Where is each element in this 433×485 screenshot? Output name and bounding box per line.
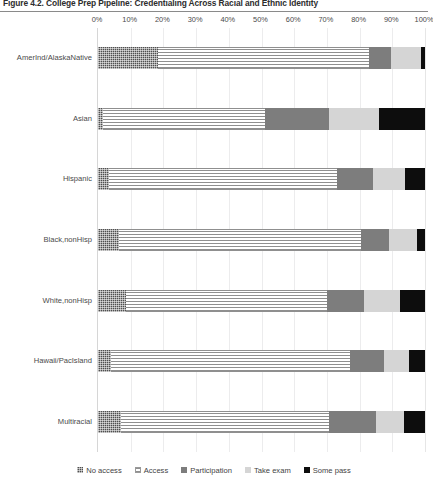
legend-label: Some pass: [313, 466, 351, 475]
bar-segment-some-pass: [404, 411, 425, 433]
bar-segment-some-pass: [409, 350, 425, 372]
bar-segment-participation: [337, 168, 373, 190]
x-axis-tick-labels: 0%10%20%30%40%50%60%70%80%90%100%: [0, 14, 428, 26]
bar-segment-access: [109, 168, 336, 190]
bar-segment-take-exam: [364, 290, 400, 312]
category-label: White,nonHisp: [43, 296, 92, 306]
legend-label: Access: [144, 466, 168, 475]
title-divider: [0, 11, 428, 12]
legend-swatch-icon: [304, 467, 310, 473]
stacked-bar: [98, 168, 425, 190]
legend-label: No access: [86, 466, 121, 475]
bar-row: Asian: [98, 108, 425, 130]
x-axis-tick-100: 100%: [415, 14, 433, 26]
legend-item-participation[interactable]: Participation: [181, 466, 232, 475]
category-label: Asian: [73, 114, 92, 124]
bar-row: Hispanic: [98, 168, 425, 190]
bar-segment-access: [126, 290, 327, 312]
x-axis-tick-50: 50%: [253, 14, 268, 26]
bar-segment-no-access: [98, 47, 158, 69]
bar-segment-some-pass: [421, 47, 425, 69]
bar-row: Black,nonHisp: [98, 229, 425, 251]
x-axis-tick-0: 0%: [92, 14, 103, 26]
bar-row: White,nonHisp: [98, 290, 425, 312]
bar-segment-participation: [327, 290, 365, 312]
legend-label: Take exam: [254, 466, 291, 475]
bar-row: AmerInd/AlaskaNative: [98, 47, 425, 69]
bar-segment-access: [121, 411, 329, 433]
stacked-bar: [98, 47, 425, 69]
bar-segment-access: [119, 229, 361, 251]
x-axis-tick-90: 90%: [384, 14, 399, 26]
bar-segment-some-pass: [405, 168, 425, 190]
x-axis-tick-10: 10%: [122, 14, 137, 26]
x-axis-tick-20: 20%: [155, 14, 170, 26]
bar-segment-participation: [350, 350, 384, 372]
bar-segment-no-access: [98, 411, 121, 433]
bar-segment-participation: [265, 108, 329, 130]
category-label: Multiracial: [58, 417, 92, 427]
legend-swatch-icon: [245, 467, 251, 473]
bar-segment-participation: [369, 47, 391, 69]
stacked-bar: [98, 290, 425, 312]
legend-swatch-icon: [181, 467, 187, 473]
bar-segment-take-exam: [373, 168, 406, 190]
bar-segment-take-exam: [376, 411, 404, 433]
bar-segment-access: [103, 108, 265, 130]
x-axis-tick-80: 80%: [351, 14, 366, 26]
bar-segment-some-pass: [400, 290, 425, 312]
stacked-bar: [98, 411, 425, 433]
bar-segment-access: [158, 47, 369, 69]
bar-segment-some-pass: [379, 108, 425, 130]
stacked-bar: [98, 108, 425, 130]
bar-row: Multiracial: [98, 411, 425, 433]
stacked-bar: [98, 229, 425, 251]
legend-item-some-pass[interactable]: Some pass: [304, 466, 351, 475]
plot-area: AmerInd/AlaskaNativeAsianHispanicBlack,n…: [97, 28, 426, 452]
bar-segment-participation: [329, 411, 376, 433]
bar-row: Hawaii/PacIsland: [98, 350, 425, 372]
bar-segment-no-access: [98, 290, 126, 312]
bar-segment-participation: [361, 229, 389, 251]
legend-swatch-icon: [135, 467, 141, 473]
bar-segment-no-access: [98, 168, 109, 190]
category-label: Hawaii/PacIsland: [34, 356, 92, 366]
bar-segment-take-exam: [391, 47, 421, 69]
stacked-bar: [98, 350, 425, 372]
legend-item-access[interactable]: Access: [135, 466, 168, 475]
x-axis-tick-70: 70%: [318, 14, 333, 26]
legend-swatch-icon: [77, 467, 83, 473]
x-axis-tick-60: 60%: [286, 14, 301, 26]
legend-label: Participation: [190, 466, 232, 475]
bar-segment-no-access: [98, 229, 119, 251]
legend-item-take-exam[interactable]: Take exam: [245, 466, 291, 475]
bar-segment-access: [111, 350, 350, 372]
category-label: Black,nonHisp: [43, 235, 92, 245]
chart-legend: No accessAccessParticipationTake examSom…: [0, 462, 428, 478]
bar-segment-take-exam: [384, 350, 409, 372]
bar-segment-no-access: [98, 350, 111, 372]
category-label: AmerInd/AlaskaNative: [17, 53, 92, 63]
x-axis-tick-40: 40%: [220, 14, 235, 26]
bar-segment-take-exam: [389, 229, 417, 251]
figure-title: Figure 4.2. College Prep Pipeline: Crede…: [3, 0, 427, 9]
bar-segment-take-exam: [329, 108, 380, 130]
bar-segment-some-pass: [417, 229, 425, 251]
legend-item-no-access[interactable]: No access: [77, 466, 121, 475]
x-axis-tick-30: 30%: [188, 14, 203, 26]
category-label: Hispanic: [63, 174, 92, 184]
